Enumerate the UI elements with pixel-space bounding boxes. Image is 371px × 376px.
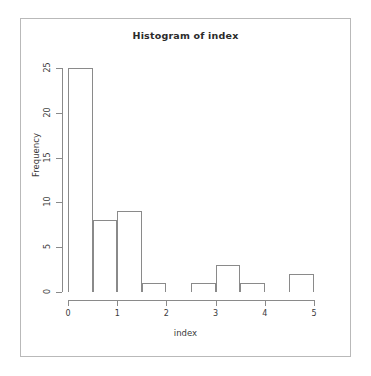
x-tick-label: 2 [158, 309, 174, 318]
histogram-bar [240, 283, 265, 292]
histogram-bar [93, 220, 118, 292]
x-tick-mark [166, 300, 167, 306]
x-tick-mark [314, 300, 315, 306]
y-tick-mark [56, 158, 62, 159]
y-tick-label: 10 [43, 195, 52, 209]
y-axis-line [62, 68, 63, 292]
x-tick-mark [265, 300, 266, 306]
x-tick-label: 3 [208, 309, 224, 318]
x-tick-mark [68, 300, 69, 306]
y-tick-label: 5 [43, 240, 52, 254]
y-tick-mark [56, 202, 62, 203]
y-tick-mark [56, 68, 62, 69]
x-tick-mark [216, 300, 217, 306]
y-tick-label: 15 [43, 150, 52, 164]
chart-title: Histogram of index [0, 30, 371, 41]
histogram-bar [117, 211, 142, 292]
histogram-bar [68, 68, 93, 292]
histogram-bar [289, 274, 314, 292]
x-tick-label: 1 [109, 309, 125, 318]
y-tick-label: 25 [43, 61, 52, 75]
y-tick-label: 0 [43, 285, 52, 299]
x-tick-label: 0 [60, 309, 76, 318]
histogram-bar [191, 283, 216, 292]
histogram-bar [216, 265, 241, 292]
x-axis-line [68, 300, 314, 301]
y-tick-mark [56, 113, 62, 114]
plot-area [68, 68, 314, 292]
y-tick-mark [56, 292, 62, 293]
x-tick-mark [117, 300, 118, 306]
x-tick-label: 4 [257, 309, 273, 318]
y-tick-label: 20 [43, 105, 52, 119]
histogram-screenshot: Histogram of index Frequency index 05101… [0, 0, 371, 376]
x-tick-label: 5 [306, 309, 322, 318]
y-axis-label: Frequency [31, 115, 41, 195]
y-tick-mark [56, 247, 62, 248]
histogram-bar [142, 283, 167, 292]
x-axis-label: index [0, 328, 371, 338]
